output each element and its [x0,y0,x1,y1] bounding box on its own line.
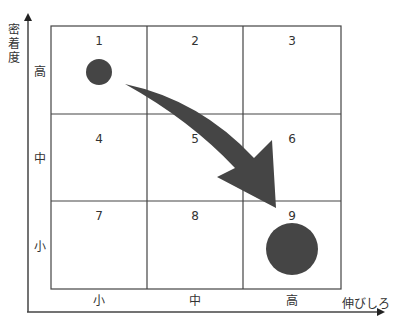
end-marker-large-circle [266,223,318,275]
col-label-high: 高 [286,293,298,308]
cell-number: 4 [95,132,103,146]
y-axis-arrowhead-icon [24,13,32,21]
cell-number: 6 [288,132,296,146]
cell-number: 8 [191,209,199,223]
cell-number: 5 [191,132,199,146]
y-axis-label-char: 度 [8,50,20,65]
x-axis-label: 伸びしろ [342,297,390,311]
cell-number: 7 [95,209,103,223]
row-label-mid: 中 [34,151,46,166]
row-label-high: 高 [34,64,46,79]
cell-number: 1 [95,34,103,48]
col-label-low: 小 [93,294,105,308]
start-marker-small-circle [86,59,112,85]
curved-arrow-icon [125,84,276,208]
row-label-low: 小 [34,240,46,254]
cell-number: 9 [288,209,296,223]
cell-number: 2 [191,34,199,48]
y-axis-label-char: 密 [8,22,20,37]
matrix-diagram: 密 着 度 伸びしろ 高 中 小 小 中 高 1 2 3 4 5 6 7 8 9 [0,0,399,329]
y-axis-label-char: 着 [8,36,20,51]
col-label-mid: 中 [189,293,201,308]
cell-number: 3 [288,34,296,48]
